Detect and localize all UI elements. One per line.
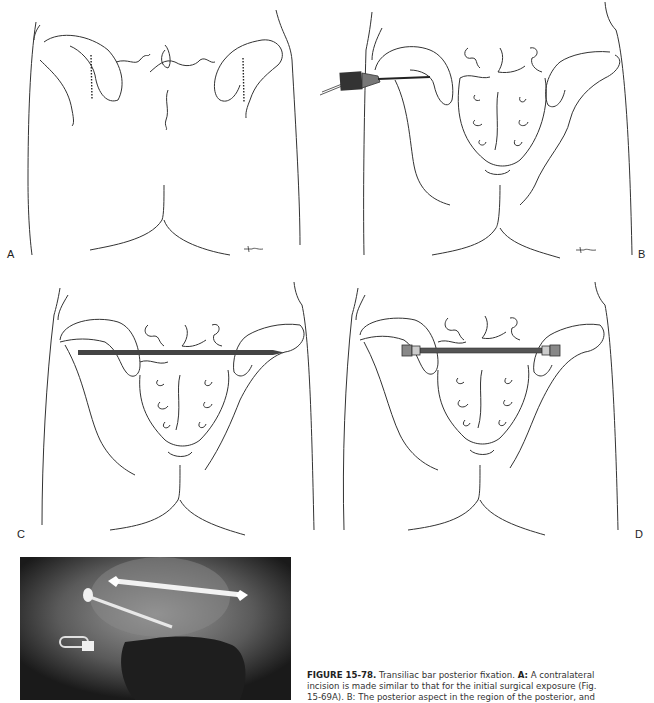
panel-b-illustration: B	[320, 0, 654, 275]
nut-icon	[550, 345, 560, 356]
panel-label-b: B	[638, 248, 645, 260]
artist-signature-icon	[244, 246, 263, 252]
figure-number: FIGURE 15-78.	[307, 670, 376, 680]
pelvic-cavity-shadow	[121, 637, 245, 700]
pelvis-bar-insertion-drawing	[0, 280, 320, 545]
panel-label-c: C	[17, 528, 25, 540]
pelvis-incision-drawing	[0, 0, 320, 275]
figure-caption: FIGURE 15-78. Transiliac bar posterior f…	[307, 670, 652, 703]
pelvis-bar-fixation-drawing	[320, 280, 654, 545]
pelvis-drill-drawing	[320, 0, 654, 275]
washer-icon	[542, 346, 550, 355]
washer-icon	[412, 346, 420, 355]
caption-text-a: A contralateral	[531, 670, 595, 680]
figure-title: Transiliac bar posterior fixation.	[379, 670, 515, 680]
caption-line-1: FIGURE 15-78. Transiliac bar posterior f…	[307, 670, 652, 681]
xray-fixation-image	[20, 557, 291, 700]
caption-line-2: incision is made similar to that for the…	[307, 681, 652, 692]
artist-signature-icon	[576, 247, 596, 253]
panel-a-illustration: A	[0, 0, 320, 275]
threaded-bar-icon	[78, 350, 284, 355]
panel-label-a: A	[7, 248, 14, 260]
nut-icon	[402, 345, 412, 356]
caption-label-a: A:	[518, 670, 528, 680]
panel-label-d: D	[635, 528, 643, 540]
caption-line-3: 15-69A). B: The posterior aspect in the …	[307, 692, 652, 703]
panel-c-illustration: C	[0, 280, 320, 545]
panel-d-illustration: D	[320, 280, 654, 545]
drill-icon	[320, 71, 430, 95]
radiograph-image	[20, 557, 291, 700]
